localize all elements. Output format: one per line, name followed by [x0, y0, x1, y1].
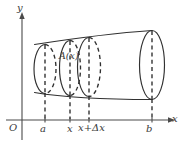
tick-label-a: a [40, 124, 46, 134]
cross-section-x-front-arc [60, 41, 70, 96]
cross-section-a-front-arc [34, 45, 45, 94]
origin-label: O [9, 123, 17, 133]
y-axis-arrowhead [19, 12, 24, 19]
solid-body-group [35, 31, 153, 100]
x-axis-label: x [172, 114, 178, 124]
tick-label-x-plus-delta-x: x+Δx [78, 123, 105, 133]
cross-section-area-label: A(x) [59, 51, 79, 61]
cross-section-a [34, 45, 56, 94]
drop-lines-group [45, 93, 152, 119]
tick-label-x: x [67, 124, 73, 134]
cross-section-xdx-hidden-arc [89, 38, 100, 97]
tick-label-b: b [146, 124, 152, 134]
cross-section-x-hidden-arc [70, 41, 80, 96]
y-axis-label: y [17, 3, 23, 13]
cross-section-b [140, 31, 165, 100]
cross-section-xdx-front-arc [78, 38, 89, 97]
cross-section-a-hidden-arc [45, 45, 56, 94]
figure-container: y x O a x x+Δx b A(x) [0, 0, 185, 147]
solid-bottom-profile [35, 93, 153, 100]
solid-top-profile [35, 31, 153, 45]
